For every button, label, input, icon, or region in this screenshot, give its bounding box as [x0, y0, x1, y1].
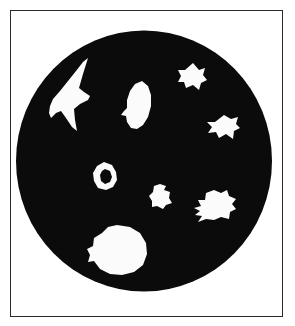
micrograph-canvas: [0, 0, 295, 326]
figure-root: [0, 0, 295, 326]
